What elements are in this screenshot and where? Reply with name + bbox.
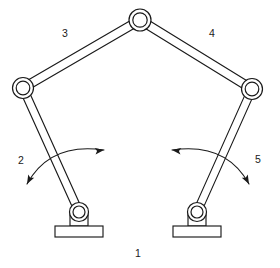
right-crank-link-5-body [193,87,255,213]
label-right-crank-link-5: 5 [255,153,261,165]
link-bars-group [19,16,255,213]
left-coupler-link-3 [21,16,142,91]
label-ground-link-1: 1 [135,247,141,259]
top-apex-joint-inner-ring [133,13,147,27]
top-apex-joint [129,9,151,31]
right-crank-motion-arc-head-start [242,174,252,185]
left-crank-motion-arc-head-start [24,174,34,185]
left-elbow-joint [13,78,34,99]
label-left-crank-link-2: 2 [18,154,24,166]
right-coupler-link-4-body [138,16,255,92]
right-elbow-joint-inner-ring [245,82,259,96]
left-ground-pivot-inner-ring [73,206,85,218]
left-ground-pivot [70,203,89,222]
left-ground-support-base [55,226,103,237]
right-elbow-joint [242,79,263,100]
pin-joints-group [13,9,263,222]
label-left-coupler-link-3: 3 [62,27,68,39]
hatch-stroke [103,226,114,237]
label-right-coupler-link-4: 4 [209,27,215,39]
right-ground-support-base [173,226,221,237]
linkage-diagram-root: 1 2 3 4 5 [0,0,280,268]
left-crank-motion-arc-head-end [95,147,105,155]
right-ground-pivot [188,203,207,222]
left-coupler-link-3-body [21,16,142,91]
right-crank-link-5 [193,87,255,213]
linkage-diagram-canvas: 1 2 3 4 5 [0,0,280,268]
right-crank-motion-arc-head-end [172,147,182,155]
right-ground-pivot-inner-ring [191,206,203,218]
right-coupler-link-4 [138,16,255,92]
left-elbow-joint-inner-ring [16,81,30,95]
hatch-stroke [221,226,232,237]
